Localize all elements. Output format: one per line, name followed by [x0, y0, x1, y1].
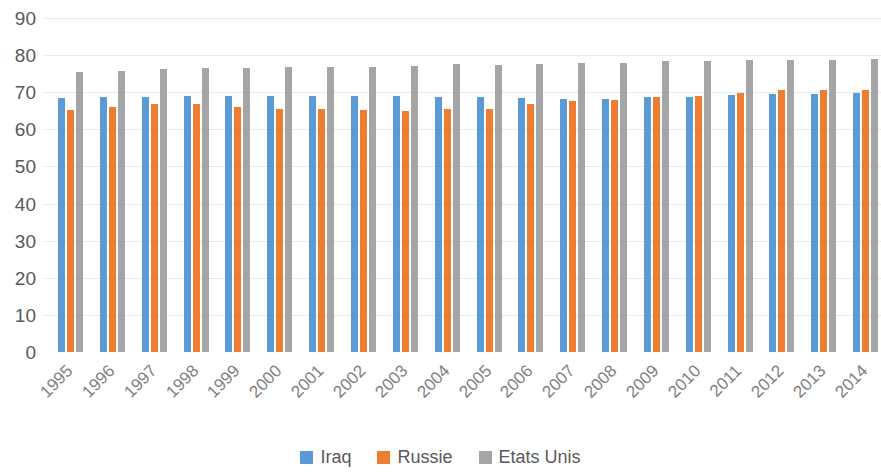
bar-etats-unis-2014[interactable] [871, 59, 878, 352]
bar-group [811, 18, 836, 352]
x-tick-label: 2000 [246, 362, 285, 401]
bar-etats-unis-1998[interactable] [202, 68, 209, 352]
bar-etats-unis-2007[interactable] [578, 63, 585, 352]
bar-russie-2002[interactable] [360, 110, 367, 352]
bar-etats-unis-2006[interactable] [536, 64, 543, 352]
legend-item-etats-unis[interactable]: Etats Unis [479, 448, 581, 466]
bar-russie-2000[interactable] [276, 109, 283, 352]
x-tick-label: 2012 [749, 362, 788, 401]
bar-russie-2003[interactable] [402, 111, 409, 352]
bar-etats-unis-2013[interactable] [829, 60, 836, 352]
bar-etats-unis-2002[interactable] [369, 67, 376, 352]
bar-group [602, 18, 627, 352]
legend-label: Iraq [320, 448, 351, 466]
bar-iraq-2014[interactable] [853, 93, 860, 352]
bar-russie-2010[interactable] [695, 96, 702, 352]
chart-legend: IraqRussieEtats Unis [0, 448, 881, 466]
bar-russie-1996[interactable] [109, 107, 116, 352]
bar-iraq-2010[interactable] [686, 97, 693, 352]
bar-russie-2006[interactable] [527, 104, 534, 352]
bar-etats-unis-2012[interactable] [787, 60, 794, 352]
y-tick-label: 90 [15, 9, 36, 28]
x-tick-label: 2010 [665, 362, 704, 401]
bar-iraq-2004[interactable] [435, 97, 442, 352]
bar-etats-unis-2011[interactable] [746, 60, 753, 352]
x-tick-label: 2002 [330, 362, 369, 401]
plot-area [44, 18, 881, 352]
bar-group [853, 18, 878, 352]
bar-iraq-1996[interactable] [100, 97, 107, 352]
bar-group [267, 18, 292, 352]
bar-iraq-2003[interactable] [393, 96, 400, 352]
bar-etats-unis-2010[interactable] [704, 61, 711, 352]
bar-group [100, 18, 125, 352]
bar-chart: 0102030405060708090 19951996199719981999… [0, 0, 881, 474]
bar-russie-2013[interactable] [820, 90, 827, 352]
bar-russie-2005[interactable] [486, 109, 493, 352]
x-tick-label: 2013 [790, 362, 829, 401]
bar-iraq-1997[interactable] [142, 97, 149, 352]
bar-etats-unis-2003[interactable] [411, 66, 418, 352]
bar-iraq-2012[interactable] [769, 94, 776, 352]
x-tick-label: 2005 [456, 362, 495, 401]
y-tick-label: 40 [15, 194, 36, 213]
bar-group [351, 18, 376, 352]
bar-russie-2014[interactable] [862, 90, 869, 352]
bar-iraq-2000[interactable] [267, 96, 274, 352]
x-tick-label: 1997 [121, 362, 160, 401]
bar-etats-unis-1997[interactable] [160, 69, 167, 352]
bar-iraq-2013[interactable] [811, 94, 818, 352]
bar-iraq-1995[interactable] [58, 98, 65, 352]
bar-iraq-2011[interactable] [728, 95, 735, 352]
bar-etats-unis-1995[interactable] [76, 72, 83, 352]
x-tick-label: 1996 [79, 362, 118, 401]
bar-iraq-2001[interactable] [309, 96, 316, 352]
y-tick-label: 70 [15, 83, 36, 102]
bar-group [518, 18, 543, 352]
bar-russie-1995[interactable] [67, 110, 74, 352]
y-tick-label: 10 [15, 305, 36, 324]
bar-russie-2009[interactable] [653, 97, 660, 352]
bar-group [769, 18, 794, 352]
bar-etats-unis-1996[interactable] [118, 71, 125, 352]
bar-russie-1999[interactable] [234, 107, 241, 352]
bar-iraq-2002[interactable] [351, 96, 358, 352]
bar-etats-unis-2000[interactable] [285, 67, 292, 352]
bar-etats-unis-2001[interactable] [327, 67, 334, 352]
bar-iraq-1998[interactable] [184, 96, 191, 352]
bar-group [728, 18, 753, 352]
bar-russie-1998[interactable] [193, 104, 200, 352]
bar-russie-2008[interactable] [611, 100, 618, 352]
bar-russie-2007[interactable] [569, 101, 576, 352]
bar-etats-unis-2009[interactable] [662, 61, 669, 352]
legend-swatch-icon [300, 451, 313, 464]
bar-russie-2012[interactable] [778, 90, 785, 352]
bar-etats-unis-2008[interactable] [620, 63, 627, 352]
bar-group [142, 18, 167, 352]
bar-group [393, 18, 418, 352]
y-tick-label: 0 [25, 343, 36, 362]
bar-russie-2011[interactable] [737, 93, 744, 352]
y-tick-label: 60 [15, 120, 36, 139]
x-tick-label: 2009 [623, 362, 662, 401]
bar-iraq-2009[interactable] [644, 97, 651, 352]
x-tick-label: 2011 [706, 362, 745, 401]
bar-iraq-1999[interactable] [225, 96, 232, 352]
bar-etats-unis-2005[interactable] [495, 65, 502, 352]
bar-iraq-2005[interactable] [477, 97, 484, 352]
bar-iraq-2008[interactable] [602, 99, 609, 352]
bar-etats-unis-1999[interactable] [243, 68, 250, 352]
legend-label: Etats Unis [499, 448, 581, 466]
x-tick-label: 1998 [163, 362, 202, 401]
x-tick-label: 2007 [539, 362, 578, 401]
legend-item-russie[interactable]: Russie [377, 448, 452, 466]
bar-russie-2004[interactable] [444, 109, 451, 352]
bar-etats-unis-2004[interactable] [453, 64, 460, 352]
legend-item-iraq[interactable]: Iraq [300, 448, 351, 466]
bar-iraq-2007[interactable] [560, 99, 567, 352]
bar-iraq-2006[interactable] [518, 98, 525, 352]
x-tick-label: 1999 [204, 362, 243, 401]
bar-russie-2001[interactable] [318, 109, 325, 352]
bar-russie-1997[interactable] [151, 104, 158, 352]
x-tick-label: 2014 [832, 362, 871, 401]
